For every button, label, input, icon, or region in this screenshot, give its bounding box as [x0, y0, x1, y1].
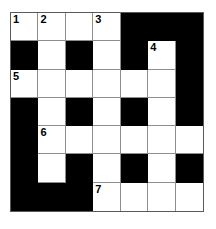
- grid-open-cell-2-6[interactable]: 4: [148, 41, 175, 69]
- grid-block-cell-6-1: [11, 154, 38, 182]
- grid-open-cell-7-7[interactable]: [176, 183, 203, 211]
- clue-number-1: 1: [13, 13, 19, 25]
- grid-open-cell-2-2[interactable]: [38, 41, 65, 69]
- grid-open-cell-5-7[interactable]: [176, 126, 203, 154]
- grid-block-cell-4-3: [66, 98, 93, 126]
- grid-block-cell-3-7: [176, 70, 203, 98]
- grid-block-cell-6-3: [66, 154, 93, 182]
- grid-block-cell-4-5: [121, 98, 148, 126]
- clue-number-3: 3: [95, 13, 101, 25]
- grid-open-cell-6-6[interactable]: [148, 154, 175, 182]
- grid-block-cell-2-7: [176, 41, 203, 69]
- clue-number-2: 2: [40, 13, 46, 25]
- grid-open-cell-1-3[interactable]: [66, 13, 93, 41]
- clue-number-6: 6: [40, 126, 46, 138]
- grid-open-cell-7-5[interactable]: [121, 183, 148, 211]
- grid-open-cell-5-6[interactable]: [148, 126, 175, 154]
- grid-open-cell-3-5[interactable]: [121, 70, 148, 98]
- grid-open-cell-6-4[interactable]: [93, 154, 120, 182]
- grid-block-cell-7-2: [38, 183, 65, 211]
- clue-number-7: 7: [95, 183, 101, 195]
- grid-block-cell-4-1: [11, 98, 38, 126]
- grid-open-cell-7-6[interactable]: [148, 183, 175, 211]
- clue-number-5: 5: [13, 70, 19, 82]
- grid-open-cell-5-5[interactable]: [121, 126, 148, 154]
- grid-open-cell-3-4[interactable]: [93, 70, 120, 98]
- grid-open-cell-3-6[interactable]: [148, 70, 175, 98]
- grid-block-cell-1-5: [121, 13, 148, 41]
- grid-open-cell-5-4[interactable]: [93, 126, 120, 154]
- grid-block-cell-6-7: [176, 154, 203, 182]
- grid-block-cell-2-3: [66, 41, 93, 69]
- grid-block-cell-7-1: [11, 183, 38, 211]
- grid-open-cell-3-2[interactable]: [38, 70, 65, 98]
- grid-open-cell-4-2[interactable]: [38, 98, 65, 126]
- grid-open-cell-1-1[interactable]: 1: [11, 13, 38, 41]
- crossword-puzzle: 1234567: [0, 0, 216, 229]
- grid-block-cell-1-7: [176, 13, 203, 41]
- grid-open-cell-4-6[interactable]: [148, 98, 175, 126]
- crossword-grid[interactable]: 1234567: [10, 12, 204, 212]
- grid-open-cell-2-4[interactable]: [93, 41, 120, 69]
- grid-block-cell-1-6: [148, 13, 175, 41]
- clue-number-4: 4: [150, 41, 156, 53]
- grid-open-cell-3-3[interactable]: [66, 70, 93, 98]
- grid-open-cell-1-2[interactable]: 2: [38, 13, 65, 41]
- grid-open-cell-3-1[interactable]: 5: [11, 70, 38, 98]
- grid-block-cell-5-1: [11, 126, 38, 154]
- grid-open-cell-5-3[interactable]: [66, 126, 93, 154]
- grid-open-cell-7-4[interactable]: 7: [93, 183, 120, 211]
- grid-open-cell-6-2[interactable]: [38, 154, 65, 182]
- grid-open-cell-1-4[interactable]: 3: [93, 13, 120, 41]
- grid-open-cell-5-2[interactable]: 6: [38, 126, 65, 154]
- grid-block-cell-7-3: [66, 183, 93, 211]
- grid-block-cell-6-5: [121, 154, 148, 182]
- grid-block-cell-4-7: [176, 98, 203, 126]
- grid-block-cell-2-5: [121, 41, 148, 69]
- grid-block-cell-2-1: [11, 41, 38, 69]
- grid-open-cell-4-4[interactable]: [93, 98, 120, 126]
